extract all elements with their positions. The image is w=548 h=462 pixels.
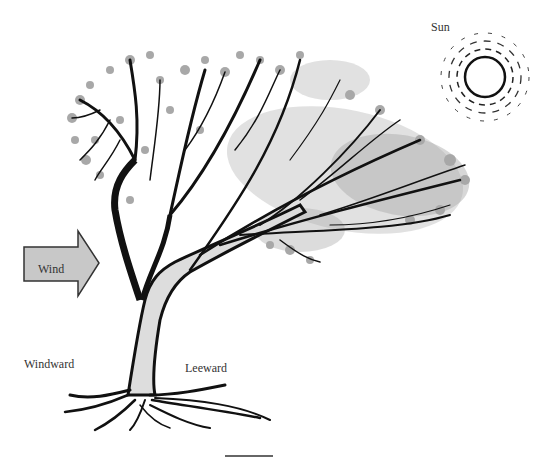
tree-illustration <box>0 0 548 462</box>
sun-label: Sun <box>431 20 450 35</box>
foliage <box>67 51 476 264</box>
leeward-label: Leeward <box>185 361 227 376</box>
windward-label: Windward <box>24 357 74 372</box>
sun-icon <box>441 33 529 121</box>
tree-roots <box>65 385 270 430</box>
diagram-canvas: Sun Wind Windward Leeward <box>0 0 548 462</box>
wind-label: Wind <box>38 262 64 277</box>
